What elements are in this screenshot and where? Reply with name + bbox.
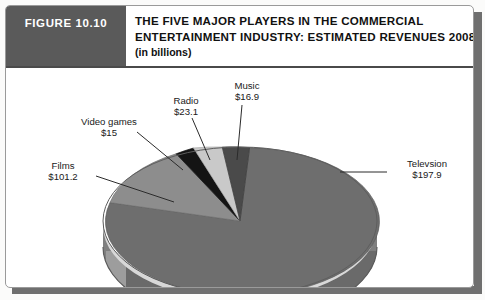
pie-label-video-games-value: $15 [66,127,152,138]
figure-title-line-2: ENTERTAINMENT INDUSTRY: ESTIMATED REVENU… [135,29,467,45]
pie-label-television-value: $197.9 [388,169,466,180]
figure-root: FIGURE 10.10 THE FIVE MAJOR PLAYERS IN T… [0,0,485,300]
figure-header: FIGURE 10.10 THE FIVE MAJOR PLAYERS IN T… [6,6,473,68]
pie-label-video-games: Video games $15 [66,116,152,139]
pie-label-films-value: $101.2 [28,171,98,182]
pie-label-films-name: Films [52,160,75,171]
pie-label-music-value: $16.9 [217,91,277,102]
figure-title-line-1: THE FIVE MAJOR PLAYERS IN THE COMMERCIAL [135,13,467,29]
pie-label-music-name: Music [234,80,259,91]
figure-number-label: FIGURE 10.10 [25,17,108,29]
pie-label-television-name: Televsion [407,158,447,169]
pie-label-radio-name: Radio [173,95,198,106]
pie-label-video-games-name: Video games [81,116,137,127]
pie-label-radio: Radio $23.1 [156,95,216,118]
figure-title-block: THE FIVE MAJOR PLAYERS IN THE COMMERCIAL… [135,13,467,60]
pie-top-face [103,147,379,287]
pie-label-films: Films $101.2 [28,160,98,183]
figure-card: FIGURE 10.10 THE FIVE MAJOR PLAYERS IN T… [5,5,474,288]
figure-number-badge: FIGURE 10.10 [6,6,126,66]
card-drop-shadow-right [474,12,482,292]
pie-chart-plot-area: Films $101.2 Video games $15 Radio $23.1… [6,68,473,287]
pie-label-music: Music $16.9 [217,80,277,103]
pie-label-television: Televsion $197.9 [388,158,466,181]
pie-label-radio-value: $23.1 [156,106,216,117]
figure-subtitle: (in billions) [135,45,467,60]
